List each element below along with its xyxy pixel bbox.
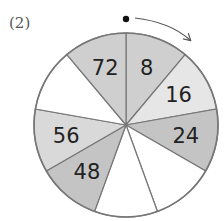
number-wheel-diagram: 81624485672 [0,0,224,221]
segment-number: 16 [165,83,192,107]
start-dot-icon [123,16,129,22]
segment-number: 24 [172,124,199,148]
segment-number: 48 [74,160,101,184]
segment-number: 8 [140,56,153,80]
segment-number: 72 [92,56,119,80]
segment-number: 56 [53,124,80,148]
